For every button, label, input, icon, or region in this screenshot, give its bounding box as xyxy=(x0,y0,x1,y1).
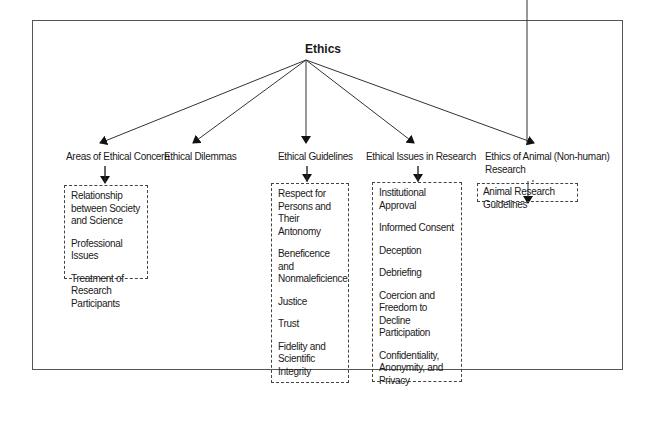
list-item: Institutional Approval xyxy=(379,187,455,212)
list-item: Relationship between Society and Science xyxy=(71,190,141,228)
list-item: Informed Consent xyxy=(379,222,455,235)
category-ethical-issues-in-research: Ethical Issues in Research xyxy=(366,150,476,163)
list-item: Debriefing xyxy=(379,267,455,280)
root-node: Ethics xyxy=(288,42,358,56)
box-ethical-issues-in-research: Institutional Approval Informed Consent … xyxy=(372,182,462,382)
list-item: Confidentiality, Anonymity, and Privacy xyxy=(379,350,455,388)
box-animal-research: Animal Research Guidelines xyxy=(477,183,578,202)
category-animal-research: Ethics of Animal (Non-human) Research xyxy=(485,150,615,176)
list-item: Beneficence and Nonmaleficience xyxy=(278,248,342,286)
category-ethical-guidelines: Ethical Guidelines xyxy=(278,150,353,163)
list-item: Professional Issues xyxy=(71,238,141,263)
category-ethical-dilemmas: Ethical Dilemmas xyxy=(164,150,236,163)
list-item: Deception xyxy=(379,245,455,258)
list-item: Fidelity and Scientific Integrity xyxy=(278,341,342,379)
list-item: Coercion and Freedom to Decline Particip… xyxy=(379,290,455,340)
list-item: Trust xyxy=(278,318,342,331)
box-areas-of-ethical-concern: Relationship between Society and Science… xyxy=(64,185,148,279)
list-item: Justice xyxy=(278,296,342,309)
list-item: Respect for Persons and Their Antonomy xyxy=(278,188,342,238)
list-item: Treatment of Research Participants xyxy=(71,273,141,311)
box-ethical-guidelines: Respect for Persons and Their Antonomy B… xyxy=(271,183,349,383)
category-areas-of-ethical-concern: Areas of Ethical Concern xyxy=(66,150,169,163)
list-item: Animal Research Guidelines xyxy=(483,186,572,211)
